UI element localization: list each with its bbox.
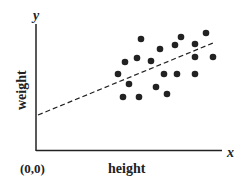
data-point	[157, 46, 164, 53]
data-point	[192, 54, 199, 61]
data-point	[192, 41, 199, 48]
data-point	[122, 59, 129, 66]
data-point	[210, 54, 217, 61]
data-point	[120, 94, 127, 101]
data-point	[126, 81, 133, 88]
x-axis-symbol: x	[226, 145, 234, 160]
origin-label: (0,0)	[20, 161, 45, 176]
scatter-chart: y x (0,0) height weight	[0, 0, 246, 180]
data-point	[134, 55, 141, 62]
data-point	[148, 58, 155, 65]
data-point	[161, 71, 168, 78]
y-axis-symbol: y	[31, 8, 40, 23]
data-point	[174, 71, 181, 78]
data-point	[115, 71, 122, 78]
data-point	[178, 34, 185, 41]
data-point	[164, 91, 171, 98]
y-axis-label: weight	[14, 70, 29, 110]
data-point	[138, 36, 145, 43]
trendline	[38, 43, 213, 115]
x-axis-label: height	[108, 161, 146, 176]
data-point	[192, 71, 199, 78]
data-point	[153, 84, 160, 91]
data-point	[136, 94, 143, 101]
data-point	[172, 42, 179, 49]
data-points	[115, 30, 217, 101]
data-point	[203, 30, 210, 37]
